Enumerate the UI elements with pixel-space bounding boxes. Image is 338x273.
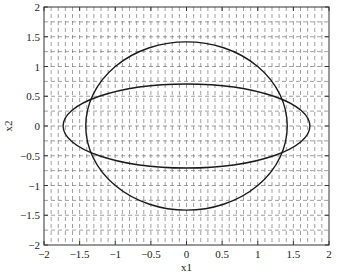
grid-lines — [44, 7, 329, 245]
y-axis-label: x2 — [2, 121, 14, 132]
x-axis-ticks: −2−1.5−1−0.500.511.52 — [38, 7, 332, 260]
x-tick-label: −0.5 — [141, 248, 161, 260]
y-tick-label: 0 — [35, 120, 41, 132]
y-tick-label: −1.5 — [20, 209, 40, 221]
x-tick-label: −1 — [109, 248, 121, 260]
x-axis-label: x1 — [181, 261, 192, 273]
x-tick-label: 0.5 — [215, 248, 229, 260]
y-tick-label: 1 — [35, 61, 41, 73]
y-tick-label: −1 — [28, 180, 40, 192]
chart: −2−1.5−1−0.500.511.52 −2−1.5−1−0.500.511… — [0, 0, 338, 273]
y-tick-label: 2 — [35, 1, 41, 13]
x-tick-label: 1.5 — [287, 248, 301, 260]
x-tick-label: 2 — [326, 248, 332, 260]
y-tick-label: 1.5 — [26, 31, 40, 43]
x-tick-label: −1.5 — [70, 248, 90, 260]
y-tick-label: 0.5 — [26, 90, 40, 102]
x-tick-label: 1 — [255, 248, 261, 260]
x-tick-label: 0 — [184, 248, 190, 260]
y-tick-label: −0.5 — [20, 150, 40, 162]
y-tick-label: −2 — [28, 239, 40, 251]
